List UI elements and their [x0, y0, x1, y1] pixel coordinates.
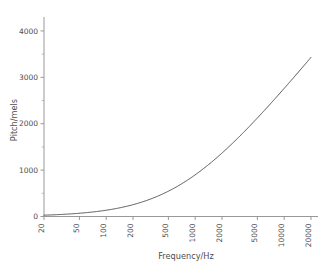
x-tick-label: 500 — [161, 223, 170, 238]
y-tick-label: 4000 — [19, 27, 38, 36]
x-tick-label: 200 — [126, 223, 135, 238]
chart-figure: 01000200030004000 Pitch/mels 20501002005… — [0, 0, 326, 267]
x-tick-label: 20 — [37, 223, 46, 233]
x-tick-label: 5000 — [250, 223, 259, 242]
y-tick-label: 0 — [33, 212, 38, 221]
mel-scale-line-chart: 01000200030004000 Pitch/mels 20501002005… — [0, 0, 326, 267]
y-tick-label: 1000 — [19, 166, 38, 175]
x-tick-label: 50 — [72, 223, 81, 233]
x-tick-label: 2000 — [215, 223, 224, 242]
y-tick-label: 2000 — [19, 119, 38, 128]
x-axis-title: Frequency/Hz — [158, 251, 214, 261]
x-tick-label: 10000 — [277, 223, 286, 247]
y-axis-title: Pitch/mels — [9, 99, 19, 141]
y-tick-label: 3000 — [19, 73, 38, 82]
x-tick-label: 20000 — [304, 223, 313, 247]
x-tick-label: 100 — [99, 223, 108, 238]
x-tick-label: 1000 — [188, 223, 197, 242]
